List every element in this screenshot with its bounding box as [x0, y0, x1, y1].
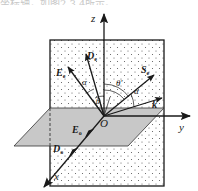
D-e-main: D [86, 50, 94, 61]
S-e-sub: e [147, 70, 150, 76]
optics-diagram: z y x O Ee De Se k Eo Do α θ θ′ α [0, 0, 198, 191]
x-axis-label: x [53, 170, 59, 182]
D-o-main: D [52, 143, 60, 154]
alpha-right-label: α [134, 86, 139, 96]
E-e-sub: e [63, 73, 66, 79]
alpha-left-label: α [82, 77, 87, 87]
theta-label: θ [96, 97, 100, 106]
y-axis-label: y [178, 121, 184, 133]
theta-prime-label: θ′ [116, 78, 123, 88]
D-e-sub: e [94, 56, 97, 62]
D-o-sub: o [60, 149, 63, 155]
z-axis-label: z [90, 12, 96, 24]
E-o-sub: o [79, 130, 82, 136]
k-label: k [152, 99, 157, 110]
origin-label: O [100, 117, 108, 129]
